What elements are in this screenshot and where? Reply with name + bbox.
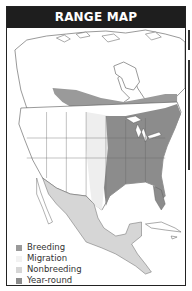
caribbean-islands bbox=[145, 222, 181, 239]
year-round-swatch-icon bbox=[16, 278, 22, 284]
nonbreeding-swatch-icon bbox=[16, 267, 22, 273]
breeding-swatch-icon bbox=[16, 245, 22, 251]
legend-item-breeding: Breeding bbox=[16, 242, 82, 253]
legend-item-nonbreeding: Nonbreeding bbox=[16, 264, 82, 275]
legend-item-year-round: Year-round bbox=[16, 275, 82, 286]
page-edge bbox=[186, 0, 192, 291]
range-map-panel: RANGE MAP Breeding bbox=[6, 6, 186, 286]
panel-title: RANGE MAP bbox=[7, 7, 185, 28]
map-legend: Breeding Migration Nonbreeding Year-roun… bbox=[16, 242, 82, 286]
legend-item-migration: Migration bbox=[16, 253, 82, 264]
migration-swatch-icon bbox=[16, 256, 22, 262]
year-round-range bbox=[104, 104, 181, 206]
